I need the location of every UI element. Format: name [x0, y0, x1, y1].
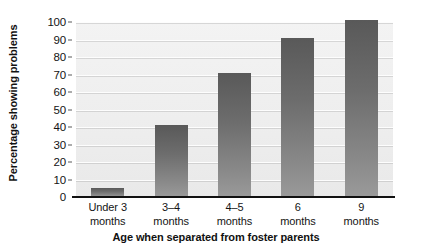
y-axis-tick-mark: [68, 179, 72, 180]
y-axis-tick-mark: [68, 127, 72, 128]
x-axis-category-labels: Under 3months3–4months4–5months6months9m…: [76, 201, 393, 233]
bar-chart-figure: Percentage showing problems 100908070605…: [0, 0, 427, 250]
y-axis-tick-label: 90: [54, 34, 66, 46]
y-axis-title-text: Percentage showing problems: [7, 24, 19, 181]
x-axis-category-label-line2: months: [76, 215, 139, 229]
y-axis-tick-mark: [68, 109, 72, 110]
y-axis-tick-label: 70: [54, 69, 66, 81]
x-axis-category-label: 6months: [266, 201, 329, 228]
y-axis-tick-label: 50: [54, 104, 66, 116]
y-axis-tick-mark: [68, 162, 72, 163]
x-axis-category-label-line1: 3–4: [162, 201, 180, 213]
x-axis-category-label-line1: 6: [295, 201, 301, 213]
y-axis-tick-label: 60: [54, 86, 66, 98]
x-axis-category-label: 9months: [330, 201, 393, 228]
x-axis-category-label-line1: 4–5: [225, 201, 243, 213]
x-axis-category-label-line2: months: [266, 215, 329, 229]
y-axis-title: Percentage showing problems: [0, 0, 26, 205]
plot-area: [76, 22, 393, 197]
y-axis-tick-label: 20: [54, 156, 66, 168]
y-axis-tick-label: 80: [54, 51, 66, 63]
y-axis-tick-mark: [68, 92, 72, 93]
bar: [155, 125, 188, 197]
y-axis-tick-mark: [68, 144, 72, 145]
x-axis-title: Age when separated from foster parents: [26, 231, 406, 243]
y-axis-tick-label: 100: [47, 16, 66, 28]
x-axis-category-label: 4–5months: [203, 201, 266, 228]
x-axis-line: [72, 196, 395, 198]
y-axis-tick-label: 0: [60, 191, 66, 203]
x-axis-category-label-line2: months: [330, 215, 393, 229]
y-axis-tick-label: 10: [54, 174, 66, 186]
bar: [281, 38, 314, 197]
y-axis-tick-label: 40: [54, 121, 66, 133]
x-axis-category-label-line1: Under 3: [88, 201, 126, 213]
x-axis-category-label-line2: months: [139, 215, 202, 229]
x-axis-category-label-line1: 9: [358, 201, 364, 213]
y-axis-tick-label: 30: [54, 139, 66, 151]
x-axis-category-label: Under 3months: [76, 201, 139, 228]
y-axis-tick-mark: [68, 22, 72, 23]
x-axis-category-label-line2: months: [203, 215, 266, 229]
y-axis-tick-labels: 1009080706050403020100: [26, 22, 72, 198]
y-axis-tick-mark: [68, 57, 72, 58]
y-axis-tick-mark: [68, 39, 72, 40]
bar: [218, 73, 251, 197]
bar: [345, 20, 378, 197]
y-axis-tick-mark: [68, 74, 72, 75]
x-axis-category-label: 3–4months: [139, 201, 202, 228]
